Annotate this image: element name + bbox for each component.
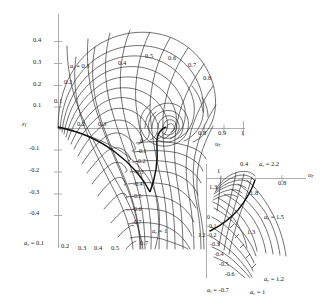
main-ar-heading: ar = 0.1 [24,240,44,248]
main-ar-bottom-02: 0.2 [61,243,69,250]
main-ar-bottom-07: 0.7 [140,240,148,247]
main-y-tick-0: 0.4 [33,37,41,44]
main-ai-col-6: -0.6 [132,206,142,212]
main-ai-arc-05: 0.5 [145,53,153,60]
inset-ai-col-0: 0 [207,214,210,220]
inset-label-13a: 1.3 [209,184,217,191]
main-y-tick-4: -0.1 [29,145,39,152]
main-ai-arc-08: 0.8 [203,75,211,82]
inset-x-tick-08: 0.8 [278,180,286,187]
main-ar-bottom-04: 0.4 [94,245,102,252]
main-y-tick-5: -0.2 [29,167,39,174]
inset-ar-15: ar = 1.5 [264,214,284,222]
main-y-axis-label: εi [22,121,26,128]
main-ai-col-3: -0.3 [134,169,144,175]
main-ai-arc-04: 0.4 [118,60,126,67]
main-ai-col-0: 0 [140,138,143,144]
main-y-tick-1: 0.3 [33,59,41,66]
main-ai-arc-02: 0.2 [64,79,72,86]
figure-canvas: εi 0.4 0.3 0.2 0.1 -0.1 -0.2 -0.3 -0.4 0… [0,0,335,306]
inset-ai-col-3: -0.3 [210,241,220,247]
main-y-tick-2: 0.2 [33,81,41,88]
inset-ai-col-4: -0.4 [214,251,224,257]
main-inner-x-02: 0.2 [77,121,85,128]
inset-label-12: 1.2 [198,232,206,238]
inset-top-1: 1 [217,168,220,175]
main-ai-arc-06: 0.6 [168,55,176,62]
chart-graphics [0,0,335,306]
main-ai-col-1: -0.1 [137,148,147,154]
inset-x-axis-label: ur [308,172,313,179]
main-x-tick-1: 1 [241,130,244,137]
main-ar-1-label: ar = 1 [152,228,167,236]
inset-ar-12: ar = 1.2 [264,276,284,284]
inset-label-13b: 1.3 [247,229,255,236]
main-x-tick-09: 0.9 [218,130,226,137]
inset-top-04: 0.4 [240,161,248,168]
main-ar-bottom-05: 0.5 [111,245,119,252]
main-ai-col-7: -0.7 [132,219,142,225]
main-x-axis-label: ur [215,141,220,148]
main-ai-arc-01: 0.1 [54,98,62,105]
main-y-tick-6: -0.3 [29,189,39,196]
inset-ai-end: ai = -0.7 [207,287,229,295]
main-ai-heading: ai = 0.3 [70,63,90,71]
main-y-tick-7: -0.4 [29,210,39,217]
inset-ar-22: ar = 2.2 [259,161,279,169]
main-inner-x-03: 0.3 [98,121,106,128]
inset-ai-col-6: -0.6 [225,271,235,277]
main-ai-col-5: -0.5 [132,193,142,199]
inset-ai-col-5: -0.5 [219,261,229,267]
main-ar-bottom-03: 0.3 [78,245,86,252]
main-x-tick-08: 0.8 [198,130,206,137]
ai-inner-spiral [140,103,188,146]
inset-label-18: 1.8 [250,190,258,197]
main-ai-col-2: -0.2 [136,158,146,164]
main-ai-col-4: -0.4 [133,181,143,187]
inset-ai-col-1: -0.1 [207,223,217,229]
inset-ai-col-2: -0.2 [207,232,217,238]
inset-ar-1: ar = 1 [250,289,265,297]
main-y-tick-3: 0.1 [33,102,41,109]
main-ai-arc-07: 0.7 [188,62,196,69]
